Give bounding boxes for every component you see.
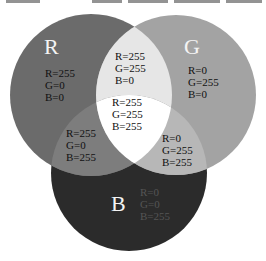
value-g: G=255 bbox=[162, 144, 193, 156]
label-red-big: R bbox=[44, 36, 59, 58]
value-g: G=0 bbox=[140, 198, 170, 210]
value-g: G=255 bbox=[112, 108, 143, 120]
values-red-blue: R=255 G=0 B=255 bbox=[66, 127, 96, 163]
value-r: R=255 bbox=[112, 96, 143, 108]
value-r: R=0 bbox=[162, 132, 193, 144]
values-blue: R=0 G=0 B=255 bbox=[140, 186, 170, 222]
value-r: R=255 bbox=[66, 127, 96, 139]
label-blue-big: B bbox=[111, 193, 126, 215]
value-b: B=255 bbox=[112, 120, 143, 132]
value-r: R=255 bbox=[45, 67, 75, 79]
value-g: G=255 bbox=[188, 76, 219, 88]
value-b: B=0 bbox=[115, 74, 146, 86]
values-green: R=0 G=255 B=0 bbox=[188, 64, 219, 100]
value-r: R=0 bbox=[140, 186, 170, 198]
value-r: R=0 bbox=[188, 64, 219, 76]
values-center: R=255 G=255 B=255 bbox=[112, 96, 143, 132]
value-g: G=0 bbox=[66, 139, 96, 151]
value-g: G=255 bbox=[115, 62, 146, 74]
value-g: G=0 bbox=[45, 79, 75, 91]
values-red-green: R=255 G=255 B=0 bbox=[115, 50, 146, 86]
values-green-blue: R=0 G=255 B=255 bbox=[162, 132, 193, 168]
value-b: B=0 bbox=[45, 91, 75, 103]
value-b: B=255 bbox=[66, 151, 96, 163]
value-b: B=0 bbox=[188, 88, 219, 100]
label-green-big: G bbox=[184, 36, 200, 58]
value-b: B=255 bbox=[140, 210, 170, 222]
value-r: R=255 bbox=[115, 50, 146, 62]
value-b: B=255 bbox=[162, 156, 193, 168]
values-red: R=255 G=0 B=0 bbox=[45, 67, 75, 103]
